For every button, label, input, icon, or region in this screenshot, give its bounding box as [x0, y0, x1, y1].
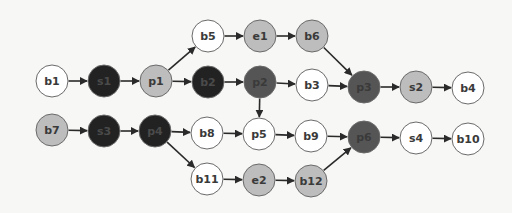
- node-p6: p6: [348, 121, 381, 154]
- node-p2: p2: [244, 66, 277, 99]
- node-s4: s4: [400, 122, 433, 155]
- node-p5: p5: [243, 118, 276, 151]
- node-b7: b7: [36, 114, 69, 147]
- node-label: s1: [97, 75, 111, 88]
- node-label: p6: [356, 131, 372, 144]
- edge-b6-p3: [324, 48, 352, 76]
- node-label: b3: [304, 79, 320, 92]
- node-b6: b6: [296, 20, 329, 53]
- node-p4: p4: [139, 115, 172, 148]
- node-label: s3: [97, 125, 111, 138]
- node-b2: b2: [192, 66, 225, 99]
- node-label: b11: [195, 173, 218, 186]
- node-label: b5: [200, 30, 216, 43]
- graph-canvas: b5e1b6b1s1p1b2p2b3p3s2b4b7s3p4b8p5b9p6s4…: [0, 0, 512, 213]
- node-label: e2: [251, 174, 266, 187]
- node-label: b4: [460, 82, 476, 95]
- node-label: b9: [303, 130, 319, 143]
- node-label: b8: [199, 127, 215, 140]
- edge-p2-b3: [276, 83, 295, 84]
- node-label: b7: [44, 124, 60, 137]
- node-label: p1: [148, 75, 164, 88]
- node-s2: s2: [400, 71, 433, 104]
- node-label: p4: [147, 125, 163, 138]
- node-label: p5: [251, 128, 267, 141]
- node-p3: p3: [348, 71, 381, 104]
- node-b11: b11: [191, 163, 224, 196]
- node-label: s2: [409, 81, 423, 94]
- node-label: p2: [252, 76, 268, 89]
- node-label: p3: [356, 81, 372, 94]
- node-s1: s1: [88, 65, 121, 98]
- node-b12: b12: [295, 165, 328, 198]
- node-s3: s3: [88, 115, 121, 148]
- node-label: b2: [200, 76, 216, 89]
- edge-p4-b11: [167, 142, 194, 167]
- node-p1: p1: [140, 65, 173, 98]
- edge-p4-b8: [171, 132, 190, 133]
- edge-b12-p6: [324, 148, 351, 171]
- node-b1: b1: [36, 65, 69, 98]
- edge-p5-b9: [275, 135, 294, 136]
- node-b4: b4: [452, 72, 485, 105]
- node-b9: b9: [295, 120, 328, 153]
- node-label: b6: [304, 30, 320, 43]
- node-label: b10: [456, 133, 479, 146]
- edge-b3-p3: [328, 86, 347, 87]
- node-label: s4: [409, 132, 423, 145]
- node-label: b12: [299, 175, 322, 188]
- edge-p1-b5: [168, 47, 195, 70]
- node-e2: e2: [243, 164, 276, 197]
- node-label: e1: [252, 30, 267, 43]
- node-b5: b5: [192, 20, 225, 53]
- node-b3: b3: [296, 69, 329, 102]
- node-e1: e1: [244, 20, 277, 53]
- node-b8: b8: [191, 117, 224, 150]
- node-label: b1: [44, 75, 60, 88]
- node-b10: b10: [452, 123, 485, 156]
